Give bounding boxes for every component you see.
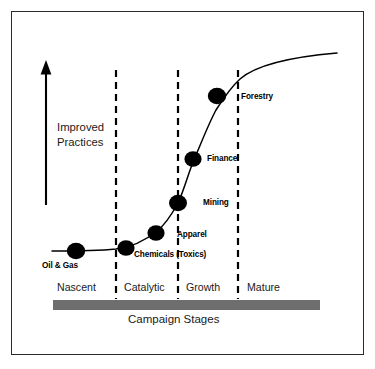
point-label-finance: Finance <box>207 155 237 164</box>
stage-label-nascent: Nascent <box>57 282 96 293</box>
point-label-apparel: Apparel <box>177 231 207 240</box>
stage-label-growth: Growth <box>186 282 220 293</box>
point-label-chemicals: Chemicals (Toxics) <box>134 251 206 260</box>
point-label-oil-and-gas: Oil & Gas <box>42 262 78 271</box>
figure-root: Improved Practices Oil & Gas Chemicals (… <box>0 0 375 369</box>
stage-label-mature: Mature <box>247 282 280 293</box>
point-label-mining: Mining <box>203 199 229 208</box>
x-axis-title: Campaign Stages <box>128 313 219 325</box>
y-axis-label-line2: Practices <box>57 137 103 149</box>
y-axis-label-line1: Improved <box>57 122 104 134</box>
stage-label-catalytic: Catalytic <box>124 282 165 293</box>
point-label-forestry: Forestry <box>241 93 273 102</box>
figure-border <box>11 11 364 355</box>
